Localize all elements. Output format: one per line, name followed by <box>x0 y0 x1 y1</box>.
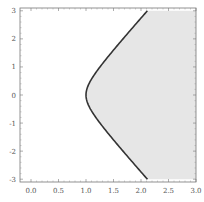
y-tick-label: -1 <box>9 120 16 128</box>
y-tick-label: -3 <box>9 176 16 184</box>
x-tick-label: 0.5 <box>53 187 64 195</box>
x-tick-label: 1.5 <box>108 187 119 195</box>
x-tick-label: 2.5 <box>163 187 174 195</box>
x-tick-label: 3.0 <box>190 187 201 195</box>
x-tick-label: 1.0 <box>80 187 91 195</box>
y-tick-label: 1 <box>12 63 16 71</box>
y-tick-label: 2 <box>12 35 16 43</box>
x-tick-label: 2.0 <box>135 187 146 195</box>
y-tick-label: 3 <box>12 7 16 15</box>
y-tick-label: 0 <box>12 92 16 100</box>
plot-area <box>20 8 196 182</box>
x-tick-label: 0.0 <box>25 187 36 195</box>
chart: 0.00.51.01.52.02.53.0 -3-2-10123 <box>0 0 204 202</box>
y-tick-label: -2 <box>9 148 16 156</box>
